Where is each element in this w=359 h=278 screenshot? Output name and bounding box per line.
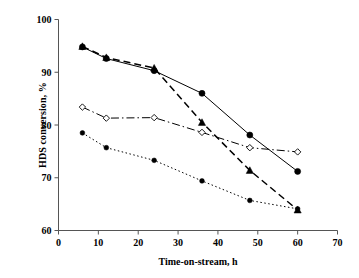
data-point-filled-circle	[295, 168, 301, 174]
svg-text:60: 60	[42, 225, 52, 236]
svg-text:100: 100	[37, 14, 52, 25]
series-small-filled-circle	[80, 131, 300, 212]
svg-text:60: 60	[293, 237, 303, 248]
data-point-small-filled-circle	[80, 131, 85, 136]
data-point-small-filled-circle	[104, 145, 109, 150]
series-line	[82, 133, 297, 209]
svg-text:90: 90	[42, 67, 52, 78]
data-series-group	[79, 43, 301, 213]
svg-text:70: 70	[42, 172, 52, 183]
data-point-open-diamond	[199, 129, 205, 135]
plot-canvas: 60708090100010203040506070	[0, 0, 359, 278]
svg-text:20: 20	[133, 237, 143, 248]
series-line	[82, 46, 297, 210]
data-point-open-diamond	[247, 144, 253, 150]
data-point-small-filled-circle	[247, 198, 252, 203]
svg-text:10: 10	[93, 237, 103, 248]
data-point-small-filled-circle	[295, 206, 300, 211]
series-line	[82, 107, 297, 152]
svg-text:40: 40	[213, 237, 223, 248]
svg-text:30: 30	[173, 237, 183, 248]
data-point-small-filled-circle	[200, 179, 205, 184]
data-point-open-diamond	[103, 115, 109, 121]
svg-text:0: 0	[56, 237, 61, 248]
data-point-open-diamond	[79, 104, 85, 110]
tick-marks-group	[55, 20, 338, 235]
svg-text:50: 50	[253, 237, 263, 248]
chart-figure: HDS conversion, % Time-on-stream, h 6070…	[0, 0, 359, 278]
svg-text:70: 70	[333, 237, 343, 248]
data-point-small-filled-circle	[152, 158, 157, 163]
svg-text:80: 80	[42, 120, 52, 131]
data-point-filled-circle	[199, 90, 205, 96]
series-filled-triangle	[79, 43, 301, 213]
series-open-diamond	[79, 104, 301, 155]
data-point-filled-circle	[247, 132, 253, 138]
data-point-open-diamond	[294, 149, 300, 155]
series-line	[82, 47, 297, 171]
data-point-open-diamond	[151, 114, 157, 120]
series-filled-circle	[79, 44, 300, 174]
axes-group	[59, 20, 338, 231]
